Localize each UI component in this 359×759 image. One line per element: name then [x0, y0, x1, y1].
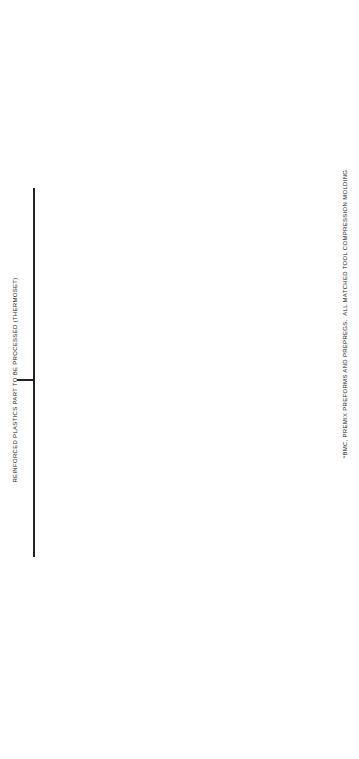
- footnote: *BMC, PREMIX PREFORMS AND PREPREGS. ALL …: [342, 170, 349, 459]
- decision-tree-diagram: REINFORCED PLASTICS PART TO BE PROCESSED…: [0, 0, 359, 759]
- root-stem: [17, 379, 34, 381]
- main-spine: [33, 188, 35, 557]
